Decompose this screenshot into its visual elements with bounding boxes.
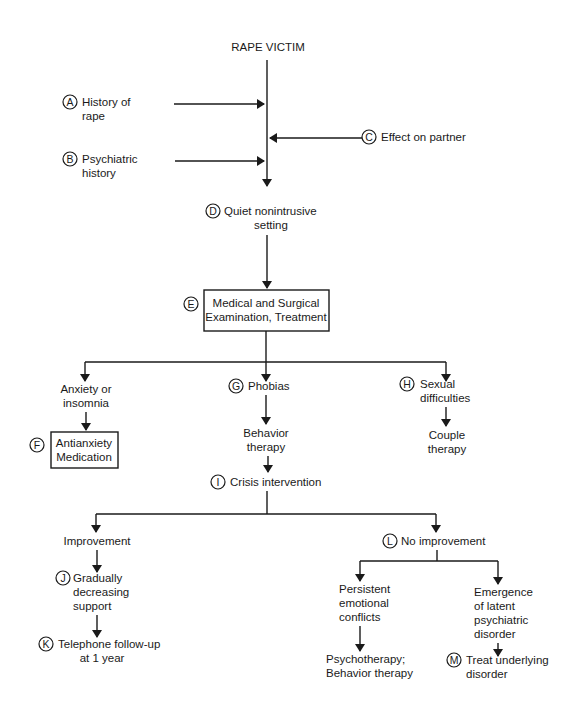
flowchart-canvas: RAPE VICTIM A History of rape B Psychiat… (0, 0, 565, 715)
node-j: J Gradually decreasing support (56, 571, 129, 612)
svg-text:G: G (232, 380, 240, 392)
input-a-label: History of (82, 96, 131, 108)
svg-text:rape: rape (82, 110, 105, 122)
svg-text:difficulties: difficulties (420, 392, 471, 404)
svg-text:setting: setting (254, 219, 288, 231)
node-d-label: Quiet nonintrusive (224, 205, 317, 217)
svg-text:insomnia: insomnia (63, 397, 110, 409)
svg-text:L: L (387, 535, 393, 547)
svg-text:psychiatric: psychiatric (474, 614, 529, 626)
node-d: D Quiet nonintrusive setting (206, 204, 317, 231)
svg-text:support: support (73, 600, 112, 612)
node-h: H Sexual difficulties (400, 377, 471, 404)
node-couple: Couple therapy (428, 429, 467, 455)
svg-text:I: I (217, 476, 220, 488)
node-persistent: Persistent emotional conflicts (339, 583, 391, 623)
svg-text:K: K (42, 638, 49, 650)
svg-text:of latent: of latent (474, 600, 516, 612)
node-e-label: Medical and Surgical (213, 297, 320, 309)
node-e: E Medical and Surgical Examination, Trea… (184, 290, 329, 331)
node-k: K Telephone follow-up at 1 year (39, 637, 160, 664)
node-couple-label: Couple (429, 429, 465, 441)
node-improvement-label: Improvement (63, 535, 131, 547)
node-j-label: Gradually (73, 572, 122, 584)
node-m: M Treat underlying disorder (447, 653, 549, 680)
node-g-label: Phobias (248, 380, 290, 392)
input-c-label: Effect on partner (381, 131, 466, 143)
input-c: C Effect on partner (270, 130, 466, 144)
node-l-label: No improvement (401, 535, 486, 547)
svg-text:A: A (66, 96, 73, 108)
svg-text:Behavior therapy: Behavior therapy (326, 667, 413, 679)
input-b-label: Psychiatric (82, 153, 138, 165)
node-psychotherapy: Psychotherapy; Behavior therapy (326, 653, 413, 679)
node-improvement: Improvement (63, 535, 131, 547)
node-behavior: Behavior therapy (243, 427, 289, 453)
svg-text:F: F (34, 439, 40, 451)
node-i: I Crisis intervention (211, 475, 321, 489)
node-k-label: Telephone follow-up (58, 638, 160, 650)
svg-text:E: E (187, 298, 194, 310)
svg-text:history: history (82, 167, 116, 179)
svg-text:Examination, Treatment: Examination, Treatment (205, 311, 327, 323)
svg-text:B: B (66, 153, 73, 165)
node-h-label: Sexual (420, 378, 455, 390)
node-psychotherapy-label: Psychotherapy; (326, 653, 405, 665)
node-emergence-label: Emergence (474, 586, 533, 598)
input-a: A History of rape (63, 95, 264, 122)
node-l: L No improvement (383, 534, 486, 548)
node-f-label: Antianxiety (56, 437, 113, 449)
svg-text:therapy: therapy (428, 443, 467, 455)
svg-text:conflicts: conflicts (339, 611, 381, 623)
node-anxiety: Anxiety or insomnia (60, 383, 111, 409)
svg-text:disorder: disorder (466, 668, 508, 680)
node-f: F Antianxiety Medication (30, 432, 118, 468)
svg-text:J: J (60, 572, 65, 584)
svg-text:emotional: emotional (339, 597, 389, 609)
svg-text:Medication: Medication (56, 451, 112, 463)
svg-text:H: H (403, 378, 411, 390)
node-g: G Phobias (229, 379, 290, 393)
node-i-label: Crisis intervention (230, 476, 321, 488)
svg-text:M: M (450, 654, 459, 666)
node-root: RAPE VICTIM (231, 41, 304, 53)
node-m-label: Treat underlying (466, 654, 549, 666)
svg-text:C: C (365, 131, 373, 143)
root-label: RAPE VICTIM (231, 41, 304, 53)
node-anxiety-label: Anxiety or (60, 383, 111, 395)
svg-text:D: D (209, 205, 217, 217)
node-emergence: Emergence of latent psychiatric disorder (474, 586, 533, 640)
node-persistent-label: Persistent (339, 583, 391, 595)
svg-text:at 1 year: at 1 year (80, 652, 125, 664)
input-b: B Psychiatric history (63, 152, 264, 179)
svg-text:disorder: disorder (474, 628, 516, 640)
svg-text:decreasing: decreasing (73, 586, 129, 598)
svg-text:therapy: therapy (247, 441, 286, 453)
node-behavior-label: Behavior (243, 427, 289, 439)
